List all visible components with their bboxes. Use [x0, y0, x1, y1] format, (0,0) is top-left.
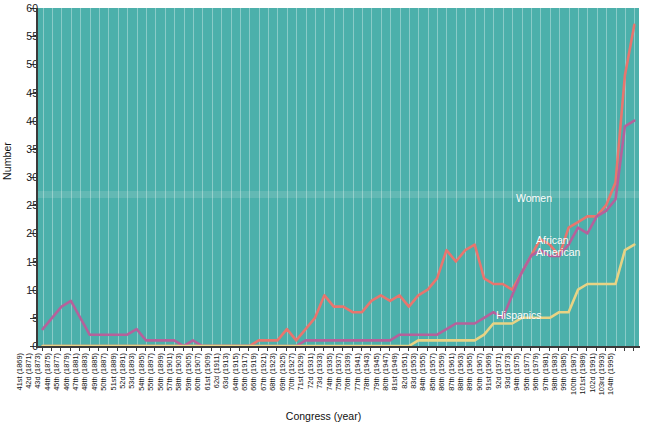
x-tick-label: 104th (1995) [607, 351, 647, 405]
y-tick-label: 50 [12, 59, 38, 69]
y-tick-label: 30 [12, 172, 38, 182]
series-lines [38, 8, 639, 346]
series-svg [38, 8, 639, 346]
chart-figure: Number 051015202530354045505560 41st (18… [0, 0, 647, 428]
y-tick-label: 40 [12, 116, 38, 126]
y-tick-label: 0 [12, 341, 38, 351]
y-axis-ticks: 051015202530354045505560 [0, 0, 38, 356]
series-annotation-hispanics: Hispanics [496, 310, 542, 322]
x-axis-label: Congress (year) [0, 410, 647, 422]
y-axis-line [36, 8, 38, 347]
x-tick-group: 104th (1995) [629, 348, 639, 406]
y-tick-label: 60 [12, 3, 38, 13]
y-tick-label: 35 [12, 144, 38, 154]
x-axis-ticks: 41st (1869)42d (1871)43d (1873)44th (187… [38, 348, 639, 406]
y-tick-label: 5 [12, 313, 38, 323]
series-annotation-women: Women [516, 193, 552, 205]
plot-area [38, 8, 639, 346]
series-annotation-african-american: African American [536, 235, 580, 258]
y-tick-label: 15 [12, 257, 38, 267]
y-tick-label: 55 [12, 31, 38, 41]
y-tick-label: 25 [12, 200, 38, 210]
y-tick-label: 45 [12, 88, 38, 98]
y-tick-label: 10 [12, 285, 38, 295]
y-tick-label: 20 [12, 228, 38, 238]
series-line-women [43, 25, 635, 346]
